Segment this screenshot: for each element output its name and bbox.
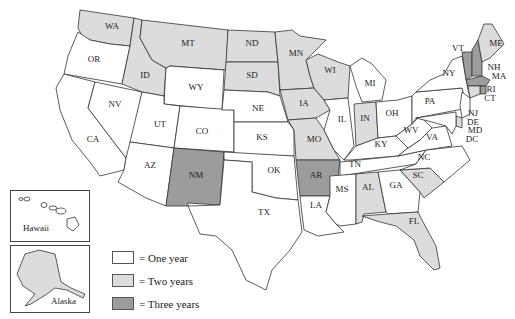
svg-text:AZ: AZ (144, 160, 156, 170)
svg-text:WA: WA (105, 21, 119, 31)
svg-text:MO: MO (307, 134, 322, 144)
hawaii-inset: Hawaii (10, 190, 90, 242)
svg-text:SD: SD (246, 70, 258, 80)
svg-text:MA: MA (492, 71, 507, 81)
legend-item-three-years: = Three years (112, 292, 199, 315)
svg-text:MS: MS (335, 184, 348, 194)
svg-text:LA: LA (310, 200, 322, 210)
legend-swatch-three-years (112, 297, 134, 310)
svg-text:VT: VT (452, 43, 464, 53)
state-FL (362, 212, 440, 270)
svg-text:UT: UT (154, 119, 166, 129)
svg-text:OK: OK (268, 165, 281, 175)
svg-text:GA: GA (390, 180, 403, 190)
svg-text:NE: NE (252, 103, 264, 113)
svg-text:MN: MN (289, 48, 304, 58)
legend-item-two-years: = Two years (112, 269, 199, 292)
svg-text:CO: CO (196, 126, 209, 136)
svg-text:DC: DC (466, 134, 479, 144)
svg-text:CA: CA (87, 134, 100, 144)
svg-text:IA: IA (299, 98, 309, 108)
svg-text:NY: NY (443, 68, 456, 78)
hawaii-islands-icon (11, 191, 89, 241)
svg-text:NC: NC (418, 152, 431, 162)
svg-text:OH: OH (386, 108, 399, 118)
alaska-label: Alaska (51, 296, 76, 306)
legend-label: = Three years (139, 298, 199, 310)
svg-text:NM: NM (189, 170, 204, 180)
alaska-inset: Alaska (10, 245, 90, 313)
svg-text:MI: MI (365, 78, 376, 88)
svg-text:KY: KY (375, 139, 388, 149)
legend-label: = One year (139, 252, 188, 264)
svg-text:ND: ND (246, 38, 259, 48)
svg-text:ID: ID (140, 70, 150, 80)
hawaii-label: Hawaii (23, 223, 49, 233)
svg-text:ME: ME (489, 38, 503, 48)
svg-text:TN: TN (349, 159, 361, 169)
alaska-shape-icon (11, 246, 89, 312)
svg-text:TX: TX (258, 207, 270, 217)
svg-text:KS: KS (256, 132, 268, 142)
svg-text:IL: IL (338, 114, 347, 124)
legend-swatch-one-year (112, 251, 134, 264)
svg-text:CT: CT (484, 93, 496, 103)
svg-text:VA: VA (426, 132, 438, 142)
svg-text:MT: MT (181, 38, 195, 48)
svg-text:IN: IN (360, 113, 370, 123)
svg-text:AL: AL (362, 182, 374, 192)
svg-text:FL: FL (409, 216, 420, 226)
state-DE (456, 116, 462, 128)
legend-label: = Two years (139, 275, 193, 287)
legend-swatch-two-years (112, 274, 134, 287)
legend-item-one-year: = One year (112, 246, 199, 269)
svg-text:WY: WY (189, 82, 204, 92)
svg-text:AR: AR (310, 170, 323, 180)
svg-text:PA: PA (425, 96, 436, 106)
state-CT (468, 86, 480, 98)
svg-text:SC: SC (412, 170, 423, 180)
svg-text:OR: OR (88, 54, 101, 64)
svg-text:WI: WI (324, 65, 336, 75)
svg-text:NV: NV (109, 99, 122, 109)
legend: = One year = Two years = Three years (112, 246, 199, 315)
svg-text:WV: WV (404, 125, 419, 135)
